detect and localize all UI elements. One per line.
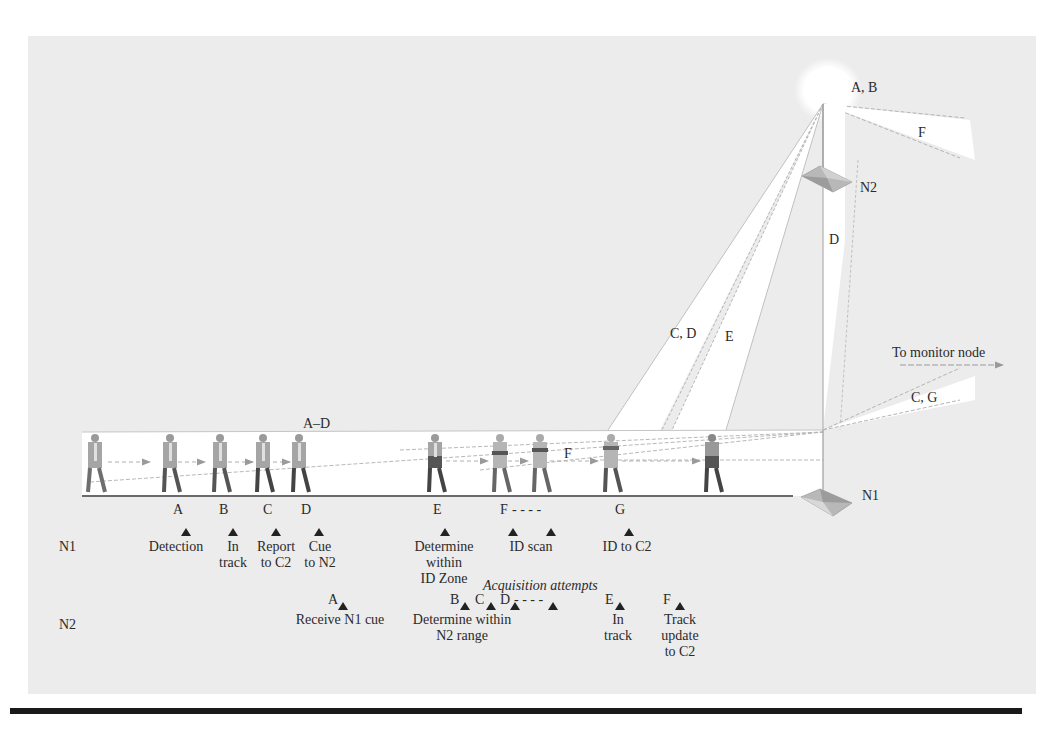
n1-marker-e: E — [433, 502, 442, 518]
beam-label-f-top: F — [918, 125, 926, 141]
n2-marker-b: B — [450, 592, 459, 608]
beam-label-d: D — [829, 232, 839, 248]
n1-marker-d: D — [301, 502, 311, 518]
beam-label-f-mid: F — [564, 446, 572, 462]
n2-marker-a: A — [328, 592, 338, 608]
beam-label-cd: C, D — [670, 326, 696, 342]
n1-event-detection: Detection — [149, 539, 203, 555]
n2-marker-d: D — [500, 592, 510, 608]
beam-label-ab: A, B — [851, 80, 877, 96]
n1-marker-g: G — [615, 502, 625, 518]
n2-event-in-track: Intrack — [604, 612, 632, 644]
n1-marker-f: F — [500, 502, 508, 518]
figure-bottom-rule — [10, 708, 1022, 714]
n2-event-receive-n1-cue: Receive N1 cue — [296, 612, 385, 628]
n1-event-id-scan: ID scan — [509, 539, 552, 555]
monitor-node-label: To monitor node — [892, 345, 985, 361]
n1-event-determine-id-zone: DeterminewithinID Zone — [414, 539, 473, 587]
beam-label-cg: C, G — [911, 390, 937, 406]
n1-marker-a: A — [173, 502, 183, 518]
n1-marker-c: C — [263, 502, 272, 518]
row-label-n2: N2 — [59, 617, 76, 633]
n1-event-id-to-c2: ID to C2 — [603, 539, 652, 555]
n1-event-triangles — [181, 528, 634, 536]
n1-event-cue-to-n2: Cueto N2 — [304, 539, 336, 571]
n1-event-in-track: Intrack — [219, 539, 247, 571]
n2-event-triangles — [338, 602, 685, 610]
sensor-network-diagram — [0, 0, 1060, 729]
n1-f-dashes: - - - - — [512, 502, 541, 518]
node-label-n2: N2 — [860, 180, 877, 196]
row-label-n1: N1 — [59, 539, 76, 555]
n1-marker-b: B — [219, 502, 228, 518]
n2-marker-c: C — [475, 592, 484, 608]
n2-marker-f: F — [663, 592, 671, 608]
beam-label-a-d: A–D — [303, 416, 330, 432]
beam-d — [823, 104, 845, 430]
beam-label-e: E — [725, 329, 734, 345]
n2-marker-e: E — [605, 592, 614, 608]
n2-event-determine-n2-range: Determine withinN2 range — [413, 612, 511, 644]
n1-event-report-to-c2: Reportto C2 — [257, 539, 295, 571]
beam-cg — [823, 376, 975, 430]
n2-event-track-update: Trackupdateto C2 — [661, 612, 698, 660]
node-label-n1: N1 — [862, 488, 879, 504]
n2-d-dashes: - - - - — [514, 592, 543, 608]
